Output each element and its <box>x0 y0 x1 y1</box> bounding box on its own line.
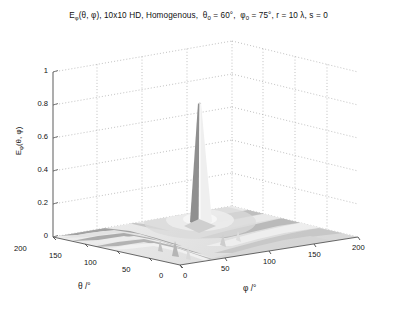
phi-tick-label-200: 200 <box>352 244 365 252</box>
theta-tick-label-50: 50 <box>122 266 130 274</box>
z-axis-label-prefix: E <box>14 150 23 155</box>
z-tick-label-0_8: 0.8 <box>22 100 48 108</box>
theta-axis-label: θ /° <box>78 281 91 291</box>
z-tick-label-1: 1 <box>22 67 48 75</box>
phi-tick-label-100: 100 <box>263 258 276 266</box>
figure-root: Eφ(θ, φ), 10x10 HD, Homogenous, θ0 = 60°… <box>0 0 397 318</box>
surface-plot <box>0 0 397 318</box>
theta-tick-label-100: 100 <box>84 259 97 267</box>
z-axis-label: Eφ(θ, φ) <box>14 106 24 176</box>
main-lobe-peak <box>184 102 216 233</box>
phi-axis-label: φ /° <box>243 283 256 293</box>
z-tick-label-0_4: 0.4 <box>22 166 48 174</box>
theta-tick-label-200: 200 <box>14 245 27 253</box>
z-axis-label-args: (θ, φ) <box>14 127 23 146</box>
z-axis-label-subscript: φ <box>18 146 24 150</box>
theta-tick-label-0: 0 <box>159 272 163 280</box>
theta-tick-label-150: 150 <box>49 252 62 260</box>
phi-tick-label-50: 50 <box>221 265 229 273</box>
phi-tick-label-0: 0 <box>183 272 187 280</box>
phi-tick-label-150: 150 <box>308 251 321 259</box>
z-axis-ticks <box>53 71 58 238</box>
z-tick-label-0: 0 <box>22 232 48 240</box>
z-tick-label-0_6: 0.6 <box>22 133 48 141</box>
z-tick-label-0_2: 0.2 <box>22 199 48 207</box>
